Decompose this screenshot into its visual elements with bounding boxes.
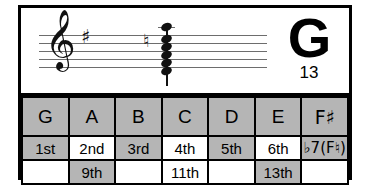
notehead xyxy=(160,65,173,76)
table-cell-degrees-5: 6th xyxy=(255,136,302,160)
scale-degree-table: GABCDEF♯ 1st2nd3rd4th5th6th♭7(F♮) 9th11t… xyxy=(21,96,349,185)
table-row-extensions: 9th11th13th xyxy=(22,160,348,184)
table-row-notes: GABCDEF♯ xyxy=(22,97,348,136)
table-cell-degrees-2: 3rd xyxy=(115,136,162,160)
treble-clef-icon: 𝄞 xyxy=(45,13,76,65)
chord-note-stack: ♮ xyxy=(157,8,197,93)
table-cell-extensions-0 xyxy=(22,160,69,184)
notehead xyxy=(160,21,173,32)
table-cell-degrees-6: ♭7(F♮) xyxy=(301,136,348,160)
table-cell-notes-1: A xyxy=(69,97,116,136)
sharp-icon: ♯ xyxy=(81,27,90,46)
natural-icon: ♮ xyxy=(143,32,149,50)
table-cell-degrees-4: 5th xyxy=(208,136,255,160)
table-cell-degrees-1: 2nd xyxy=(69,136,116,160)
table-cell-extensions-4 xyxy=(208,160,255,184)
table-cell-degrees-0: 1st xyxy=(22,136,69,160)
table-row-degrees: 1st2nd3rd4th5th6th♭7(F♮) xyxy=(22,136,348,160)
music-staff: 𝄞 ♯ ♮ xyxy=(29,8,275,93)
table-cell-extensions-1: 9th xyxy=(69,160,116,184)
chord-extension-label: 13 xyxy=(275,64,343,82)
table-cell-notes-2: B xyxy=(115,97,162,136)
table-cell-notes-3: C xyxy=(162,97,209,136)
table-cell-degrees-3: 4th xyxy=(162,136,209,160)
chord-symbol: G 13 xyxy=(275,10,343,82)
table-cell-notes-0: G xyxy=(22,97,69,136)
chord-reference-card: 𝄞 ♯ ♮ G 13 GABCDEF♯ 1st2nd3rd4th5th6th♭7… xyxy=(18,5,352,180)
table-cell-extensions-3: 11th xyxy=(162,160,209,184)
chord-root-label: G xyxy=(275,10,343,66)
table-cell-extensions-5: 13th xyxy=(255,160,302,184)
table-cell-notes-6: F♯ xyxy=(301,97,348,136)
table-body: GABCDEF♯ 1st2nd3rd4th5th6th♭7(F♮) 9th11t… xyxy=(22,97,348,184)
notation-panel: 𝄞 ♯ ♮ G 13 xyxy=(21,8,349,96)
table-cell-notes-5: E xyxy=(255,97,302,136)
table-cell-extensions-2 xyxy=(115,160,162,184)
table-cell-notes-4: D xyxy=(208,97,255,136)
table-cell-extensions-6 xyxy=(301,160,348,184)
